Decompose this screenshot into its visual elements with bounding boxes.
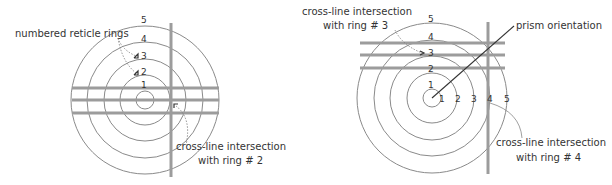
reticle-diagram: 1 2 3 4 5 numbered reticle rings cross-l… <box>0 0 612 185</box>
label-intersection-line2: with ring # 2 <box>198 155 263 166</box>
label-top-intersection-line2: with ring # 3 <box>323 20 388 31</box>
ring-label-v-3: 3 <box>428 48 434 58</box>
label-prism-orientation: prism orientation <box>516 20 602 31</box>
ring-label-v-1: 1 <box>428 80 434 90</box>
ring-label-1: 1 <box>141 80 147 90</box>
ring-label-v-2: 2 <box>428 64 434 74</box>
ring-label-4: 4 <box>141 34 147 44</box>
ring-label-h-4: 4 <box>487 94 493 104</box>
label-intersection-line1: cross-line intersection <box>176 141 286 152</box>
ring-label-5: 5 <box>141 15 147 25</box>
label-bottom-intersection-line1: cross-line intersection <box>496 137 606 148</box>
ring-label-v-4: 4 <box>428 32 434 42</box>
label-bottom-intersection-line2: with ring # 4 <box>516 152 581 163</box>
ring-label-h-1: 1 <box>439 94 445 104</box>
ring-label-h-3: 3 <box>471 94 477 104</box>
ring-label-3: 3 <box>141 51 147 61</box>
ring-label-h-5: 5 <box>504 94 510 104</box>
ring-label-v-5: 5 <box>428 14 434 24</box>
label-top-intersection-line1: cross-line intersection <box>302 6 412 17</box>
left-reticle: 1 2 3 4 5 numbered reticle rings cross-l… <box>15 15 286 177</box>
pointer-ring-3 <box>134 54 138 58</box>
ring-label-2: 2 <box>141 67 147 77</box>
right-reticle: 1 2 3 4 5 1 2 3 4 5 prism orientation cr… <box>302 6 606 174</box>
label-numbered-reticle-rings: numbered reticle rings <box>15 28 129 39</box>
ring-label-h-2: 2 <box>455 94 461 104</box>
